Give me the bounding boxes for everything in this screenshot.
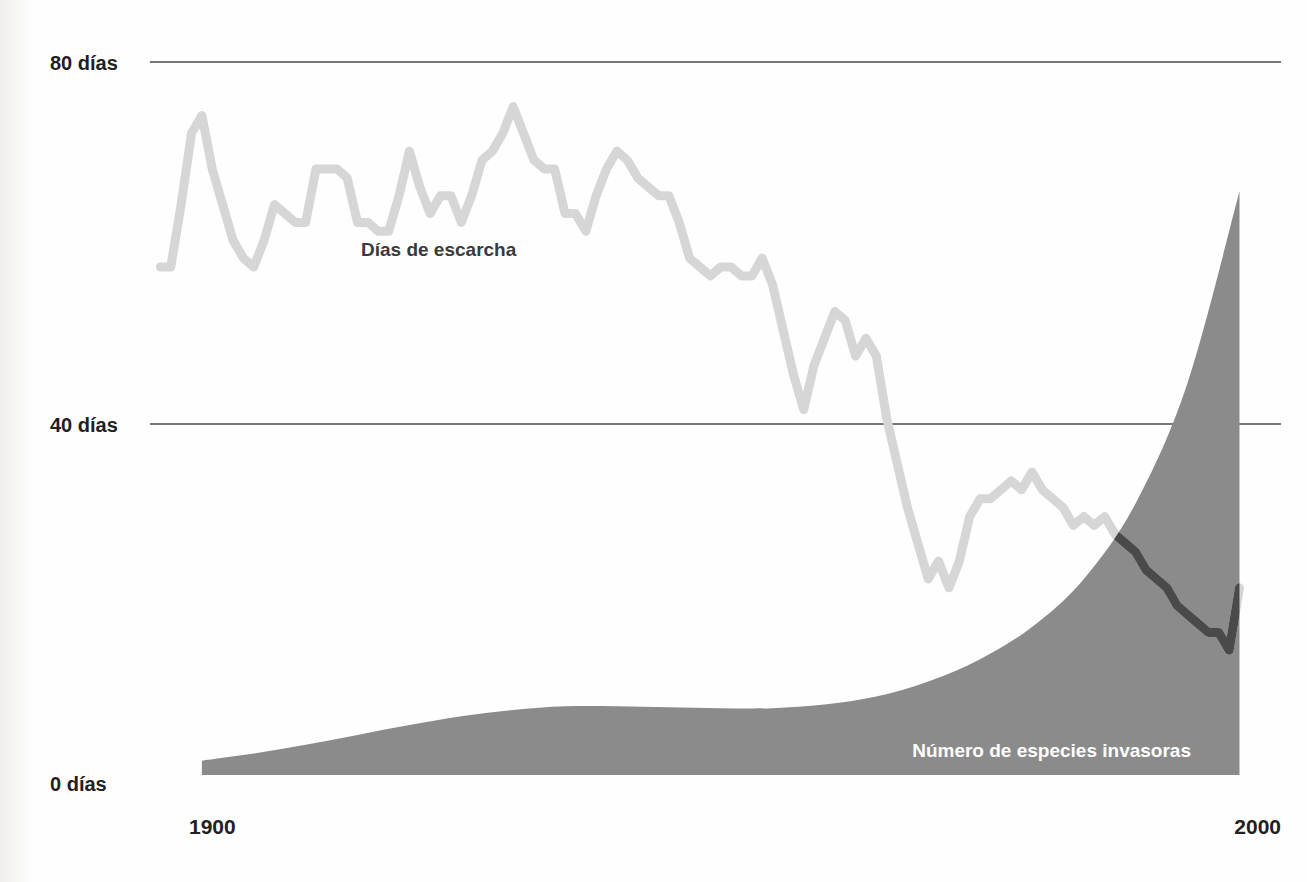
y-tick-label-0: 0 días [50,773,107,795]
x-tick-label-2000: 2000 [1234,815,1281,838]
chart-container: 80 días 40 días 0 días 1900 2000 Días de… [0,0,1307,882]
x-tick-label-1900: 1900 [189,815,236,838]
y-tick-label-80: 80 días [50,52,118,74]
frost-series-label: Días de escarcha [361,239,517,260]
gridlines [150,62,1281,424]
frost-days-vs-invasive-species-chart: 80 días 40 días 0 días 1900 2000 Días de… [0,0,1307,882]
invasive-series-label: Número de especies invasoras [912,740,1191,761]
y-tick-label-40: 40 días [50,414,118,436]
frost-days-line-over-area [160,107,1239,651]
frost-days-line [160,107,1239,651]
invasive-species-area [202,191,1240,775]
